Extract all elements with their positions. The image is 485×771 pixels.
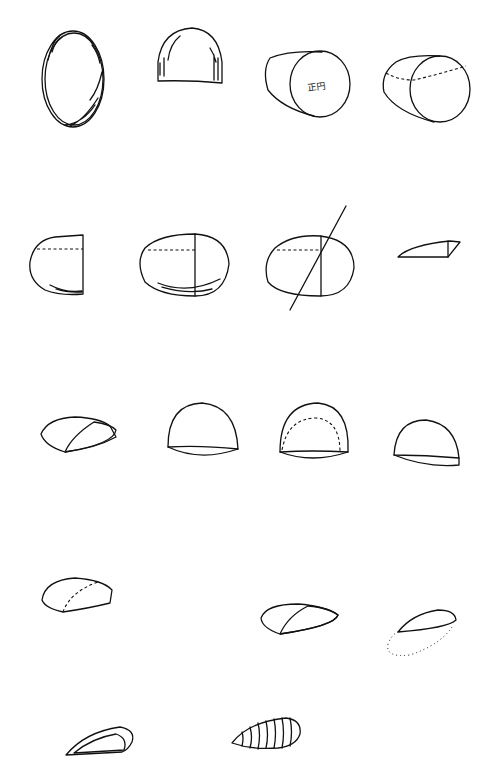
oval-split-dashed bbox=[140, 234, 229, 296]
cylinder-dashed-midline bbox=[383, 56, 470, 122]
loaf-dashed-curve bbox=[42, 578, 112, 612]
dome bbox=[168, 403, 238, 455]
sliced-loaf-hatched bbox=[41, 417, 116, 452]
ribbed-seed bbox=[232, 718, 300, 749]
sliced-loaf-hatched-2 bbox=[261, 604, 338, 634]
dome-dashed-inner bbox=[280, 403, 348, 458]
thin-wedge bbox=[398, 241, 460, 257]
dome-hatched-sides bbox=[158, 28, 222, 83]
half-oval-dashed bbox=[30, 235, 83, 295]
small-dome bbox=[394, 420, 459, 466]
hatched-ellipse-dotted bbox=[388, 610, 456, 656]
cylinder-circle-face: 正円 bbox=[265, 51, 350, 117]
circle-label: 正円 bbox=[307, 81, 326, 93]
hatched-crescent bbox=[66, 727, 133, 755]
sketch-canvas: 正円 bbox=[0, 0, 485, 771]
rough-oval-hatched bbox=[42, 31, 104, 127]
oval-diagonal-cut bbox=[266, 206, 354, 310]
